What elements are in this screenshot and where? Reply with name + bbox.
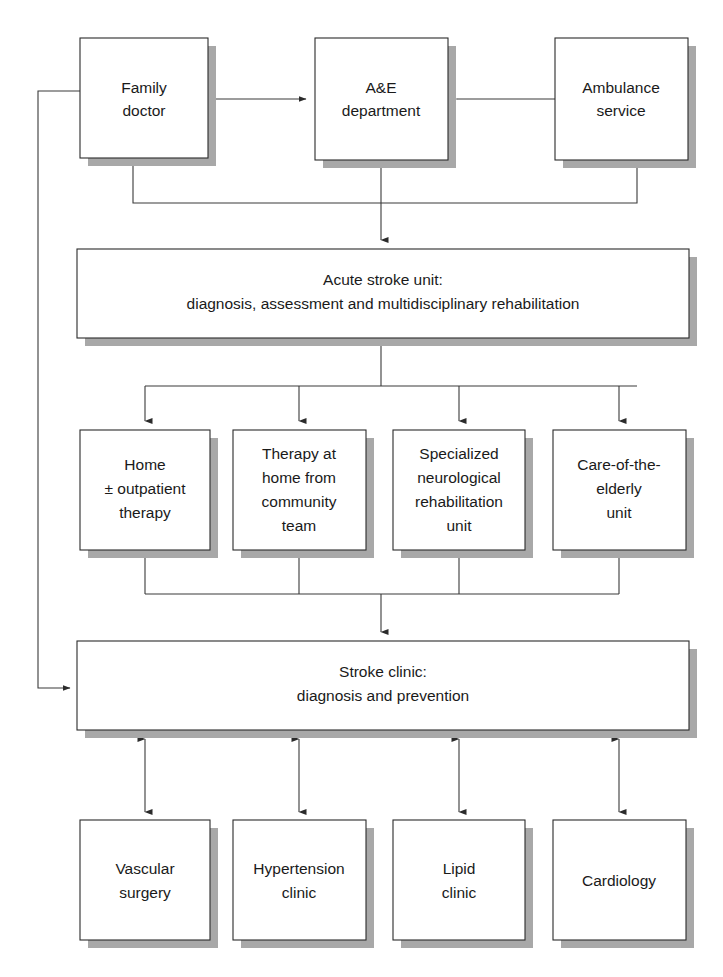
node-ae-department-line-2: department [342, 102, 421, 119]
node-acute-stroke-unit[interactable]: Acute stroke unit: diagnosis, assessment… [77, 249, 697, 346]
node-home-outpatient-therapy-line-1: Home [124, 456, 165, 473]
node-hypertension-clinic[interactable]: Hypertension clinic [233, 820, 374, 948]
node-vascular-surgery-line-2: surgery [119, 884, 171, 901]
node-home-outpatient-therapy-line-2: ± outpatient [105, 480, 187, 497]
node-hypertension-clinic-line-2: clinic [282, 884, 317, 901]
node-hypertension-clinic-line-1: Hypertension [253, 860, 344, 877]
node-family-doctor[interactable]: Family doctor [80, 38, 216, 166]
node-ambulance-service-line-2: service [596, 102, 645, 119]
flowchart-canvas: Family doctor A&E department Ambulance s… [0, 0, 723, 977]
stroke-pathway-flowchart: Family doctor A&E department Ambulance s… [0, 0, 723, 977]
node-home-outpatient-therapy[interactable]: Home ± outpatient therapy [80, 430, 218, 558]
node-lipid-clinic-line-2: clinic [442, 884, 477, 901]
node-neuro-rehab-line-2: neurological [417, 469, 501, 486]
node-cardiology[interactable]: Cardiology [553, 820, 694, 948]
node-therapy-community-line-1: Therapy at [262, 445, 337, 462]
node-vascular-surgery-line-1: Vascular [115, 860, 174, 877]
node-family-doctor-line-2: doctor [122, 102, 165, 119]
node-ae-department[interactable]: A&E department [315, 38, 456, 168]
node-neuro-rehab-line-1: Specialized [419, 445, 498, 462]
node-family-doctor-line-1: Family [121, 79, 167, 96]
node-ambulance-service-line-1: Ambulance [582, 79, 660, 96]
node-therapy-community-line-2: home from [262, 469, 336, 486]
node-acute-stroke-unit-line-2: diagnosis, assessment and multidisciplin… [187, 295, 580, 312]
node-therapy-community-line-4: team [282, 517, 316, 534]
node-lipid-clinic[interactable]: Lipid clinic [393, 820, 533, 948]
node-vascular-surgery[interactable]: Vascular surgery [80, 820, 218, 948]
node-stroke-clinic-line-1: Stroke clinic: [339, 663, 427, 680]
node-ambulance-service[interactable]: Ambulance service [555, 38, 696, 168]
node-specialized-neurological-rehabilitation-unit[interactable]: Specialized neurological rehabilitation … [393, 430, 533, 558]
node-acute-stroke-unit-line-1: Acute stroke unit: [323, 271, 443, 288]
node-care-of-the-elderly-unit[interactable]: Care-of-the- elderly unit [553, 430, 694, 558]
node-therapy-at-home-community-team[interactable]: Therapy at home from community team [233, 430, 374, 558]
node-care-elderly-line-2: elderly [596, 480, 642, 497]
node-home-outpatient-therapy-line-3: therapy [119, 504, 171, 521]
node-care-elderly-line-1: Care-of-the- [577, 456, 661, 473]
node-care-elderly-line-3: unit [607, 504, 633, 521]
edge-merge-bus-to-stroke-clinic [145, 594, 619, 632]
node-neuro-rehab-line-3: rehabilitation [415, 493, 503, 510]
node-lipid-clinic-line-1: Lipid [443, 860, 476, 877]
node-stroke-clinic-line-2: diagnosis and prevention [297, 687, 469, 704]
node-cardiology-line-1: Cardiology [582, 872, 656, 889]
node-stroke-clinic[interactable]: Stroke clinic: diagnosis and prevention [77, 641, 697, 738]
node-neuro-rehab-line-4: unit [447, 517, 473, 534]
node-ae-department-line-1: A&E [365, 79, 396, 96]
node-therapy-community-line-3: community [262, 493, 337, 510]
edge-family-doctor-to-stroke-clinic [38, 91, 80, 688]
